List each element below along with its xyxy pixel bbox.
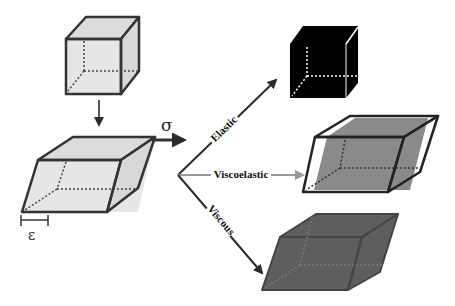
- viscoelastic-block: [303, 116, 438, 192]
- elastic-label: Elastic: [208, 113, 239, 144]
- viscoelastic-label: Viscoelastic: [214, 168, 269, 180]
- stress-symbol: σ: [161, 115, 173, 135]
- deformation-diagram: σ ε Elastic Viscoelastic Viscous: [0, 0, 455, 306]
- sheared-block: [20, 137, 155, 212]
- viscous-block: [262, 214, 398, 290]
- elastic-cube: [290, 26, 358, 98]
- strain-symbol: ε: [28, 227, 35, 243]
- strain-bracket: [21, 215, 48, 226]
- viscous-label: Viscous: [205, 202, 238, 238]
- initial-cube: [66, 17, 139, 94]
